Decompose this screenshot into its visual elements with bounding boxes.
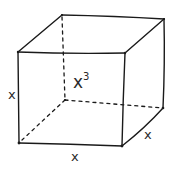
volume-label: x3 bbox=[73, 74, 89, 91]
cube-diagram: x x x x3 bbox=[0, 0, 176, 172]
vertex-front-top-left bbox=[17, 51, 19, 53]
vertex-back-bottom-right bbox=[162, 107, 165, 110]
hidden-back-bottom-edge bbox=[65, 100, 163, 108]
front-left-edge bbox=[18, 52, 19, 143]
top-back-edge bbox=[62, 15, 164, 19]
vertex-front-bottom-right bbox=[121, 145, 124, 148]
front-top-edge bbox=[18, 52, 125, 53]
vertex-front-top-right bbox=[124, 52, 126, 54]
top-left-edge bbox=[18, 15, 62, 52]
back-right-vertical-edge bbox=[163, 19, 164, 108]
volume-exponent: 3 bbox=[83, 71, 89, 82]
vertex-back-top-left bbox=[61, 14, 63, 16]
front-right-edge bbox=[122, 53, 125, 146]
vertex-front-bottom-left bbox=[18, 142, 21, 145]
vertex-back-top-right bbox=[163, 18, 165, 20]
front-bottom-edge bbox=[19, 143, 122, 146]
top-right-edge bbox=[125, 19, 164, 53]
bottom-right-edge bbox=[122, 108, 163, 146]
volume-base: x bbox=[73, 72, 83, 92]
width-label: x bbox=[71, 150, 79, 163]
height-label: x bbox=[8, 88, 16, 101]
hidden-vertical-edge bbox=[62, 17, 65, 100]
hidden-bottom-left-edge bbox=[22, 100, 65, 140]
depth-label: x bbox=[144, 128, 152, 141]
vertex-back-bottom-left bbox=[64, 99, 66, 101]
